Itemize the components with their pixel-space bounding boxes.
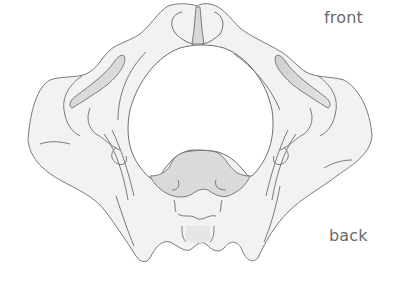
- back-label: back: [329, 226, 368, 245]
- front-label: front: [324, 8, 363, 27]
- coccyx-shadow: [186, 226, 210, 243]
